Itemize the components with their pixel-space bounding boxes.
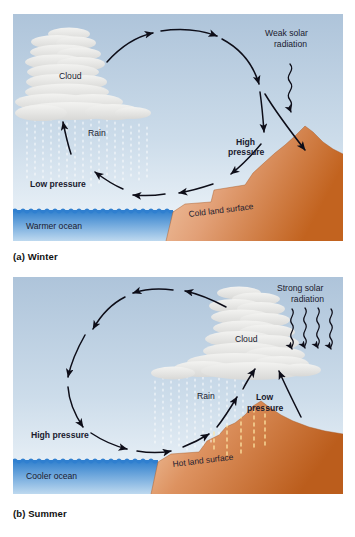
winter-label-solar-line1: Weak solar <box>265 28 308 38</box>
panel-summer: Cloud Rain Low pressure High pressure St… <box>13 277 343 527</box>
winter-label-high-pressure-line1: High <box>236 137 255 147</box>
winter-label-low-pressure: Low pressure <box>30 179 86 189</box>
summer-label-low-pressure-line1: Low <box>256 392 273 402</box>
summer-label-rain: Rain <box>197 391 215 401</box>
caption-winter: (a) Winter <box>13 251 58 262</box>
summer-label-solar-line2: radiation <box>291 294 324 304</box>
winter-label-solar-line2: radiation <box>274 39 307 49</box>
summer-diagram: Cloud Rain Low pressure High pressure St… <box>13 277 343 494</box>
summer-label-ocean: Cooler ocean <box>26 471 77 481</box>
summer-label-low-pressure-line2: pressure <box>247 403 284 413</box>
winter-label-high-pressure-line2: pressure <box>228 147 265 157</box>
winter-label-ocean: Warmer ocean <box>26 221 82 231</box>
summer-label-high-pressure: High pressure <box>31 430 89 440</box>
summer-label-solar-line1: Strong solar <box>277 283 323 293</box>
caption-summer: (b) Summer <box>13 508 67 519</box>
winter-diagram: Cloud Rain Low pressure High pressure We… <box>13 14 343 241</box>
winter-label-cloud: Cloud <box>59 71 82 81</box>
figure-root: Cloud Rain Low pressure High pressure We… <box>0 0 355 537</box>
winter-label-rain: Rain <box>88 128 106 138</box>
panel-winter: Cloud Rain Low pressure High pressure We… <box>13 14 343 269</box>
winter-ocean-surface <box>13 210 173 213</box>
summer-label-cloud: Cloud <box>235 334 258 344</box>
